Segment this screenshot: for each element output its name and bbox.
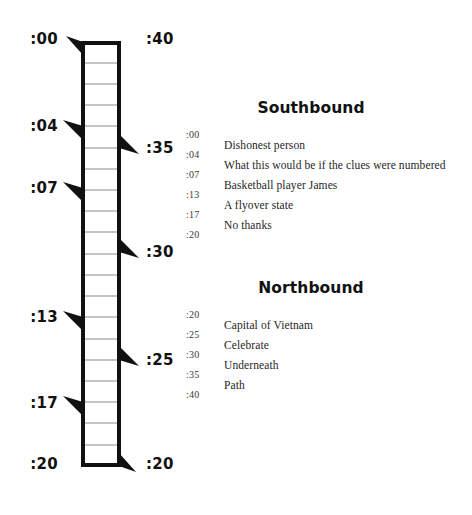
stop-time-left-3: :13: [30, 310, 58, 325]
northbound-time-3: :35: [186, 365, 212, 385]
southbound-clue-4: No thanks: [224, 215, 472, 235]
southbound-clue-2: Basketball player James: [224, 175, 472, 195]
southbound-time-3: :13: [186, 185, 212, 205]
southbound-heading: Southbound: [186, 100, 436, 117]
southbound-clue-3: A flyover state: [224, 195, 472, 215]
northbound-time-column: :20 :25 :30 :35 :40: [186, 305, 212, 405]
southbound-clue-grid: :00 :04 :07 :13 :17 :20 Dishonest person…: [186, 125, 472, 249]
stop-time-right-1: :35: [146, 141, 174, 156]
ladder-rungs: [83, 63, 119, 445]
stop-arrow-left-13: [63, 311, 83, 331]
stop-time-left-1: :04: [30, 119, 58, 134]
northbound-clue-3: Path: [224, 375, 472, 395]
northbound-clue-column: Capital of Vietnam Celebrate Underneath …: [224, 315, 472, 395]
stop-time-right-3: :25: [146, 353, 174, 368]
stop-label-left-3: :13: [0, 310, 58, 326]
stop-label-left-4: :17: [0, 396, 58, 412]
stop-label-left-5: :20: [0, 457, 58, 473]
northbound-clue-2: Underneath: [224, 355, 472, 375]
stop-arrow-right-35: [119, 134, 139, 154]
stop-time-right-2: :30: [146, 245, 174, 260]
northbound-time-4: :40: [186, 385, 212, 405]
northbound-time-0: :20: [186, 305, 212, 325]
southbound-clue-column: Dishonest person What this would be if t…: [224, 135, 472, 235]
subway-ladder-diagram: :00 :04 :07 :13 :17 :20 :40 :35 :30 :25 …: [0, 0, 210, 515]
southbound-time-5: :20: [186, 225, 212, 245]
southbound-clue-1: What this would be if the clues were num…: [224, 155, 472, 175]
southbound-time-0: :00: [186, 125, 212, 145]
southbound-time-4: :17: [186, 205, 212, 225]
stop-label-left-1: :04: [0, 119, 58, 135]
northbound-heading: Northbound: [186, 280, 436, 297]
stop-time-right-0: :40: [146, 32, 174, 47]
terminus-arrow-top-left: [66, 36, 83, 55]
southbound-section: Southbound :00 :04 :07 :13 :17 :20 Disho…: [186, 100, 472, 249]
northbound-clue-grid: :20 :25 :30 :35 :40 Capital of Vietnam C…: [186, 305, 472, 409]
southbound-time-column: :00 :04 :07 :13 :17 :20: [186, 125, 212, 245]
southbound-time-1: :04: [186, 145, 212, 165]
terminus-arrow-bottom-right: [119, 453, 136, 472]
stop-time-left-0: :00: [30, 32, 58, 47]
northbound-section: Northbound :20 :25 :30 :35 :40 Capital o…: [186, 280, 472, 409]
stop-label-left-0: :00: [0, 32, 58, 48]
stop-arrow-left-17: [63, 396, 83, 416]
stop-label-left-2: :07: [0, 181, 58, 197]
northbound-time-1: :25: [186, 325, 212, 345]
stop-time-right-4: :20: [146, 457, 174, 472]
stop-time-left-4: :17: [30, 396, 58, 411]
stop-arrow-right-30: [119, 238, 139, 258]
southbound-clue-0: Dishonest person: [224, 135, 472, 155]
stop-arrow-left-07: [63, 182, 83, 202]
northbound-time-2: :30: [186, 345, 212, 365]
stop-time-left-2: :07: [30, 181, 58, 196]
northbound-clue-0: Capital of Vietnam: [224, 315, 472, 335]
clue-panel: Southbound :00 :04 :07 :13 :17 :20 Disho…: [186, 0, 472, 515]
northbound-clue-1: Celebrate: [224, 335, 472, 355]
stop-arrow-left-04: [63, 120, 83, 140]
southbound-time-2: :07: [186, 165, 212, 185]
stop-time-left-5: :20: [30, 457, 58, 472]
stop-arrow-right-25: [119, 346, 139, 366]
